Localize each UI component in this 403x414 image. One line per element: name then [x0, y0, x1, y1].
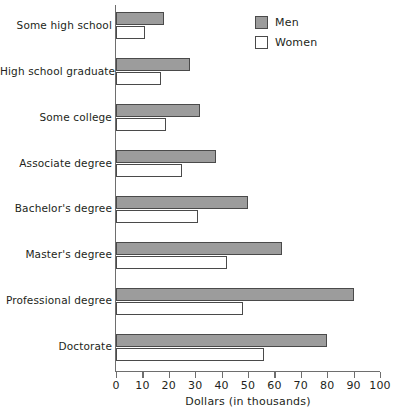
bar-chart: Some high schoolHigh school graduateSome… — [0, 0, 403, 414]
x-axis-tick — [248, 372, 249, 378]
category-label: Doctorate — [0, 340, 112, 352]
x-axis-tick-label: 80 — [320, 379, 334, 392]
x-axis-tick — [142, 372, 143, 378]
bar-women — [116, 348, 264, 361]
x-axis-tick — [169, 372, 170, 378]
x-axis-tick — [354, 372, 355, 378]
bar-women — [116, 164, 182, 177]
x-axis-tick — [274, 372, 275, 378]
x-axis-tick-label: 100 — [369, 379, 391, 392]
x-axis-tick — [222, 372, 223, 378]
x-axis-tick-label: 20 — [162, 379, 176, 392]
x-axis-title: Dollars (in thousands) — [116, 395, 380, 408]
category-label: High school graduate — [0, 65, 112, 77]
x-axis-tick-label: 10 — [135, 379, 149, 392]
x-axis-tick — [327, 372, 328, 378]
bar-women — [116, 26, 145, 39]
x-axis-tick — [116, 372, 117, 378]
x-axis-tick — [195, 372, 196, 378]
bar-men — [116, 242, 282, 255]
bar-men — [116, 196, 248, 209]
bar-women — [116, 72, 161, 85]
legend-label-women: Women — [275, 36, 317, 49]
x-axis-tick-label: 70 — [294, 379, 308, 392]
x-axis-tick — [301, 372, 302, 378]
bar-men — [116, 104, 200, 117]
category-label: Some college — [0, 111, 112, 123]
bar-women — [116, 210, 198, 223]
x-axis-tick-label: 50 — [241, 379, 255, 392]
category-label: Associate degree — [0, 157, 112, 169]
x-axis-tick-label: 40 — [214, 379, 228, 392]
legend-item-women: Women — [255, 34, 317, 51]
bar-men — [116, 334, 327, 347]
category-axis-labels: Some high schoolHigh school graduateSome… — [0, 0, 112, 414]
category-label: Master's degree — [0, 248, 112, 260]
bar-men — [116, 58, 190, 71]
category-label: Bachelor's degree — [0, 202, 112, 214]
category-label: Some high school — [0, 19, 112, 31]
x-axis-tick-label: 60 — [267, 379, 281, 392]
x-axis-tick-label: 30 — [188, 379, 202, 392]
plot-area — [116, 5, 380, 372]
legend-swatch-women-icon — [255, 36, 268, 49]
x-axis-tick-label: 0 — [112, 379, 119, 392]
legend-label-men: Men — [275, 16, 299, 29]
legend-swatch-men-icon — [255, 16, 268, 29]
bar-men — [116, 12, 164, 25]
bar-men — [116, 150, 216, 163]
bar-women — [116, 118, 166, 131]
legend: Men Women — [255, 14, 317, 54]
bar-women — [116, 256, 227, 269]
x-axis-tick — [380, 372, 381, 378]
x-axis-tick-label: 90 — [346, 379, 360, 392]
legend-item-men: Men — [255, 14, 317, 31]
bar-women — [116, 302, 243, 315]
bar-men — [116, 288, 354, 301]
category-label: Professional degree — [0, 294, 112, 306]
